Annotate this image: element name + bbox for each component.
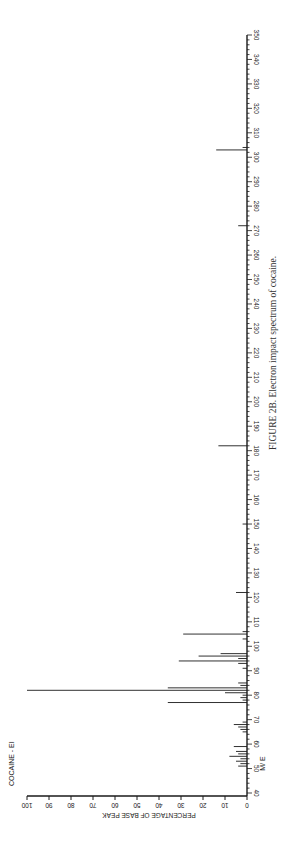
intensity-tick-label: 30 bbox=[177, 802, 185, 809]
mz-tick-label: 250 bbox=[253, 274, 260, 285]
mz-tick-label: 290 bbox=[253, 176, 260, 187]
mz-tick-label: 240 bbox=[253, 299, 260, 310]
mz-tick-label: 210 bbox=[253, 372, 260, 383]
mz-tick-label: 110 bbox=[253, 617, 260, 628]
mz-tick-label: 300 bbox=[253, 152, 260, 163]
chart-title: COCAINE - EI bbox=[8, 741, 15, 786]
mz-tick-label: 220 bbox=[253, 347, 260, 358]
intensity-tick-label: 90 bbox=[45, 802, 53, 809]
x-axis-label: M/ E bbox=[259, 756, 266, 771]
mz-tick-label: 310 bbox=[253, 127, 260, 138]
intensity-tick-label: 70 bbox=[89, 802, 97, 809]
mz-tick-label: 100 bbox=[253, 641, 260, 652]
mz-tick-label: 280 bbox=[253, 201, 260, 212]
mz-tick-label: 200 bbox=[253, 396, 260, 407]
mz-tick-label: 130 bbox=[253, 568, 260, 579]
mz-tick-label: 40 bbox=[253, 789, 260, 797]
mz-tick-label: 330 bbox=[253, 78, 260, 89]
mz-tick-label: 150 bbox=[253, 519, 260, 530]
intensity-tick-label: 80 bbox=[67, 802, 75, 809]
mz-tick-label: 320 bbox=[253, 103, 260, 114]
intensity-tick-label: 40 bbox=[155, 802, 163, 809]
mz-tick-label: 70 bbox=[253, 716, 260, 724]
mz-tick-label: 230 bbox=[253, 323, 260, 334]
mass-spectrum-chart: 4050607080901001101201301401501601701801… bbox=[0, 0, 291, 850]
mz-tick-label: 140 bbox=[253, 543, 260, 554]
mz-tick-label: 170 bbox=[253, 470, 260, 481]
intensity-tick-label: 100 bbox=[21, 802, 32, 809]
mz-tick-label: 60 bbox=[253, 740, 260, 748]
intensity-tick-label: 10 bbox=[221, 802, 229, 809]
mz-tick-label: 340 bbox=[253, 54, 260, 65]
mz-tick-label: 260 bbox=[253, 250, 260, 261]
intensity-tick-label: 0 bbox=[245, 802, 249, 809]
mz-tick-label: 190 bbox=[253, 421, 260, 432]
intensity-tick-label: 60 bbox=[111, 802, 119, 809]
mz-tick-label: 350 bbox=[253, 30, 260, 41]
mz-tick-label: 160 bbox=[253, 494, 260, 505]
mz-tick-label: 120 bbox=[253, 592, 260, 603]
intensity-tick-label: 20 bbox=[199, 802, 207, 809]
figure-caption: FIGURE 2B. Electron impact spectrum of c… bbox=[268, 256, 278, 450]
intensity-tick-label: 50 bbox=[133, 802, 141, 809]
mz-tick-label: 180 bbox=[253, 445, 260, 456]
y-axis-label: PERCENTAGE OF BASE PEAK bbox=[102, 812, 196, 819]
mz-tick-label: 90 bbox=[253, 667, 260, 675]
mz-tick-label: 80 bbox=[253, 692, 260, 700]
mz-tick-label: 270 bbox=[253, 225, 260, 236]
